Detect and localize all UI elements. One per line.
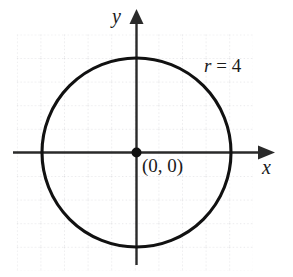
coordinate-plane-svg: [0, 0, 293, 277]
radius-value: 4: [232, 55, 242, 76]
circle-graph-figure: y x r = 4 (0, 0): [0, 0, 293, 277]
origin-coordinate-label: (0, 0): [142, 156, 183, 175]
radius-equals: =: [211, 55, 231, 76]
y-axis-label: y: [112, 6, 121, 26]
radius-annotation: r = 4: [204, 56, 241, 75]
x-axis-label: x: [262, 157, 271, 177]
origin-point-marker: [132, 148, 142, 158]
